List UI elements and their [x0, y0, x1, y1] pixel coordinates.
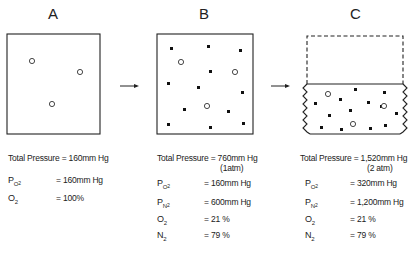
container-c-original-volume: [307, 36, 403, 84]
value-b-pn2: = 600mm Hg: [204, 197, 251, 207]
nitrogen-molecule-icon: [328, 114, 331, 117]
row-b-pn2: PN2: [157, 197, 170, 207]
value-c-o2: = 21 %: [350, 214, 376, 224]
nitrogen-molecule-icon: [395, 112, 398, 115]
row-c-po2: PO2: [305, 178, 318, 188]
value-c-n2: = 79 %: [350, 230, 376, 240]
total-pressure-b: Total Pressure = 760mm Hg: [157, 153, 258, 163]
value-c-pn2: = 1,200mm Hg: [350, 197, 404, 207]
molecules-a: [29, 58, 82, 106]
nitrogen-molecule-icon: [367, 101, 370, 104]
oxygen-molecule-icon: [49, 101, 54, 106]
row-b-po2: PO2: [157, 178, 170, 188]
row-c-n2: N2: [305, 230, 314, 240]
value-a-po2: = 160mm Hg: [56, 175, 103, 185]
nitrogen-molecule-icon: [242, 122, 245, 125]
oxygen-molecule-icon: [29, 58, 34, 63]
nitrogen-molecule-icon: [339, 98, 342, 101]
container-a: [7, 34, 100, 134]
row-c-o2: O2: [305, 214, 315, 224]
nitrogen-molecule-icon: [383, 91, 386, 94]
total-pressure-note-b: (1atm): [220, 163, 243, 173]
nitrogen-molecule-icon: [207, 45, 210, 48]
nitrogen-molecule-icon: [170, 47, 173, 50]
container-c-compressed: [303, 84, 407, 134]
value-b-o2: = 21 %: [204, 214, 230, 224]
total-pressure-c: Total Pressure = 1,520mm Hg: [300, 153, 407, 163]
nitrogen-molecule-icon: [340, 128, 343, 131]
nitrogen-molecule-icon: [167, 82, 170, 85]
row-c-pn2: PN2: [305, 197, 318, 207]
oxygen-molecule-icon: [204, 103, 209, 108]
nitrogen-molecule-icon: [209, 70, 212, 73]
nitrogen-molecule-icon: [239, 49, 242, 52]
arrow-right-icon: [120, 84, 139, 88]
nitrogen-molecule-icon: [227, 110, 230, 113]
oxygen-molecule-icon: [350, 121, 355, 126]
total-pressure-note-c: (2 atm): [367, 163, 393, 173]
nitrogen-molecule-icon: [369, 127, 372, 130]
row-b-n2: N2: [157, 230, 166, 240]
nitrogen-molecule-icon: [384, 124, 387, 127]
molecules-c: [314, 88, 398, 131]
row-a-po2: PO2: [8, 175, 21, 185]
row-b-o2: O2: [157, 214, 167, 224]
arrow-right-icon: [271, 84, 290, 88]
value-a-o2: = 100%: [56, 193, 84, 203]
nitrogen-molecule-icon: [314, 102, 317, 105]
oxygen-molecule-icon: [178, 59, 183, 64]
nitrogen-molecule-icon: [241, 91, 244, 94]
oxygen-molecule-icon: [325, 91, 330, 96]
nitrogen-molecule-icon: [167, 123, 170, 126]
value-b-n2: = 79 %: [204, 230, 230, 240]
oxygen-molecule-icon: [232, 69, 237, 74]
value-b-po2: = 160mm Hg: [204, 178, 251, 188]
nitrogen-molecule-icon: [349, 109, 352, 112]
row-a-o2: O2: [8, 193, 18, 203]
nitrogen-molecule-icon: [354, 88, 357, 91]
value-c-po2: = 320mm Hg: [350, 178, 397, 188]
oxygen-molecule-icon: [381, 103, 386, 108]
nitrogen-molecule-icon: [209, 126, 212, 129]
oxygen-molecule-icon: [77, 69, 82, 74]
nitrogen-molecule-icon: [183, 108, 186, 111]
molecules-b: [167, 45, 245, 129]
total-pressure-a: Total Pressure = 160mm Hg: [8, 153, 109, 163]
nitrogen-molecule-icon: [197, 86, 200, 89]
nitrogen-molecule-icon: [320, 126, 323, 129]
